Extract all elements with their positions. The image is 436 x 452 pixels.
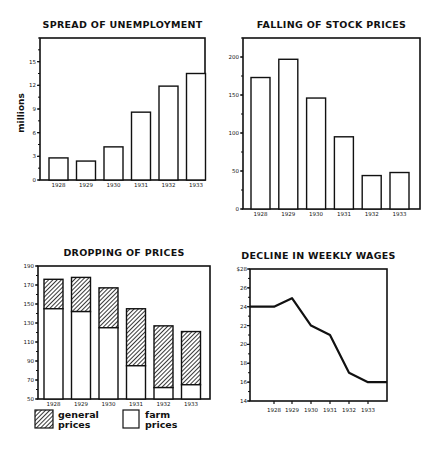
- bar: [390, 173, 409, 209]
- bar-general-prices: [154, 326, 173, 388]
- stock-prices-chart: FALLING OF STOCK PRICES05010015020019281…: [218, 0, 436, 226]
- y-tick-label: 15: [29, 59, 36, 65]
- y-tick-label: 110: [24, 339, 35, 345]
- y-tick-label: 9: [33, 106, 37, 112]
- y-tick-label: $28: [237, 266, 248, 272]
- y-tick-label: 26: [240, 285, 247, 291]
- y-axis-label: millions: [16, 93, 26, 133]
- y-tick-label: 150: [24, 301, 35, 307]
- y-tick-label: 12: [29, 82, 36, 88]
- bar-general-prices: [72, 277, 91, 311]
- bar: [132, 112, 151, 180]
- wages-line: [250, 298, 387, 382]
- x-tick-label: 1931: [134, 182, 148, 188]
- legend-label-general: prices: [58, 419, 91, 430]
- legend-label-farm: prices: [145, 419, 178, 430]
- bar: [334, 137, 353, 209]
- x-tick-label: 1930: [107, 182, 121, 188]
- x-tick-label: 1931: [337, 211, 351, 217]
- bar: [187, 74, 206, 181]
- y-tick-label: 24: [240, 304, 247, 310]
- bar: [279, 59, 298, 209]
- y-tick-label: 70: [27, 377, 34, 383]
- y-tick-label: 50: [27, 396, 34, 402]
- y-tick-label: 0: [236, 206, 240, 212]
- bar-farm-prices: [99, 328, 118, 399]
- bar: [77, 161, 96, 180]
- bar: [362, 176, 381, 209]
- x-tick-label: 1932: [365, 211, 379, 217]
- chart-title: FALLING OF STOCK PRICES: [257, 19, 406, 30]
- unemployment-chart: SPREAD OF UNEMPLOYMENT03691215millions19…: [0, 0, 218, 226]
- x-tick-label: 1933: [189, 182, 203, 188]
- x-tick-label: 1928: [47, 401, 61, 407]
- x-tick-label: 1933: [393, 211, 407, 217]
- x-tick-label: 1933: [184, 401, 198, 407]
- wages-chart: DECLINE IN WEEKLY WAGES14161820222426$28…: [218, 226, 436, 452]
- y-tick-label: 150: [229, 92, 240, 98]
- y-tick-label: 14: [240, 398, 247, 404]
- y-tick-label: 20: [240, 341, 247, 347]
- chart-title: SPREAD OF UNEMPLOYMENT: [43, 19, 203, 30]
- bar-general-prices: [99, 288, 118, 328]
- bar-general-prices: [182, 332, 201, 385]
- x-tick-label: 1932: [162, 182, 176, 188]
- stock-prices-chart-svg: FALLING OF STOCK PRICES05010015020019281…: [218, 0, 436, 226]
- x-tick-label: 1933: [361, 407, 375, 413]
- x-tick-label: 1930: [309, 211, 323, 217]
- y-tick-label: 190: [24, 263, 35, 269]
- y-tick-label: 22: [240, 323, 247, 329]
- bar-general-prices: [127, 309, 146, 366]
- x-tick-label: 1929: [74, 401, 88, 407]
- bar-farm-prices: [72, 312, 91, 399]
- y-tick-label: 50: [232, 168, 239, 174]
- bar: [104, 147, 123, 180]
- chart-title: DROPPING OF PRICES: [63, 247, 184, 258]
- bar-farm-prices: [182, 385, 201, 399]
- y-tick-label: 16: [240, 379, 247, 385]
- prices-chart: DROPPING OF PRICES5070901101301501701901…: [0, 226, 218, 452]
- x-tick-label: 1928: [52, 182, 66, 188]
- bar-farm-prices: [154, 388, 173, 399]
- legend-swatch-farm: [123, 410, 139, 428]
- bar: [49, 158, 68, 180]
- x-tick-label: 1928: [254, 211, 268, 217]
- x-tick-label: 1930: [102, 401, 116, 407]
- bar: [251, 78, 270, 209]
- x-tick-label: 1930: [304, 407, 318, 413]
- bar: [159, 86, 178, 180]
- legend-swatch-general: [35, 410, 53, 428]
- y-tick-label: 0: [33, 177, 37, 183]
- x-tick-label: 1929: [281, 211, 295, 217]
- y-tick-label: 6: [33, 130, 37, 136]
- unemployment-chart-svg: SPREAD OF UNEMPLOYMENT03691215millions19…: [0, 0, 218, 226]
- bar-general-prices: [44, 279, 63, 308]
- x-tick-label: 1929: [285, 407, 299, 413]
- bar-farm-prices: [127, 366, 146, 399]
- x-tick-label: 1932: [157, 401, 171, 407]
- y-tick-label: 3: [33, 153, 37, 159]
- y-tick-label: 170: [24, 282, 35, 288]
- y-tick-label: 90: [27, 358, 34, 364]
- x-tick-label: 1932: [342, 407, 356, 413]
- y-tick-label: 200: [229, 54, 240, 60]
- wages-chart-svg: DECLINE IN WEEKLY WAGES14161820222426$28…: [218, 226, 436, 452]
- y-tick-label: 130: [24, 320, 35, 326]
- bar-farm-prices: [44, 309, 63, 399]
- prices-chart-svg: DROPPING OF PRICES5070901101301501701901…: [0, 226, 218, 452]
- y-tick-label: 18: [240, 360, 247, 366]
- x-tick-label: 1929: [79, 182, 93, 188]
- x-tick-label: 1931: [323, 407, 337, 413]
- x-tick-label: 1928: [267, 407, 281, 413]
- y-tick-label: 100: [229, 130, 240, 136]
- x-tick-label: 1931: [129, 401, 143, 407]
- bar: [307, 98, 326, 209]
- chart-title: DECLINE IN WEEKLY WAGES: [241, 250, 396, 261]
